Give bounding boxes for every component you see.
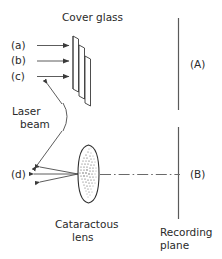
cover-glass-plate-2 xyxy=(79,45,85,99)
label-A: (A) xyxy=(190,58,205,70)
cover-glass-plate-1 xyxy=(73,36,79,92)
ray-lower xyxy=(40,174,78,182)
label-B: (B) xyxy=(190,168,205,180)
cover-glass-plate-3 xyxy=(85,56,91,106)
cover-glass-plates xyxy=(73,36,91,106)
laser-beam-leader-down xyxy=(37,131,63,166)
optical-setup-figure: Cover glass (A) (B) Recording plane (a) … xyxy=(0,0,222,259)
label-a: (a) xyxy=(11,39,26,51)
lens-caption-line1: Cataractous xyxy=(55,218,119,230)
figure-canvas: Cover glass (A) (B) Recording plane (a) … xyxy=(0,0,222,259)
lens-caption-line2: lens xyxy=(72,231,94,243)
label-b: (b) xyxy=(11,54,26,66)
cataractous-lens xyxy=(78,145,99,203)
laser-ray-bundle xyxy=(34,167,78,182)
cover-glass-title: Cover glass xyxy=(62,11,123,23)
laser-beam-leader-up xyxy=(48,84,63,104)
recording-plane-caption-line1: Recording xyxy=(160,226,213,238)
ray-upper xyxy=(40,167,78,174)
label-c: (c) xyxy=(11,70,25,82)
label-d: (d) xyxy=(11,168,26,180)
recording-plane-caption-line2: plane xyxy=(160,239,189,251)
laser-beam-caption-line2: beam xyxy=(20,118,50,130)
laser-beam-bracket xyxy=(63,103,67,131)
laser-beam-caption-line1: Laser xyxy=(12,105,41,117)
